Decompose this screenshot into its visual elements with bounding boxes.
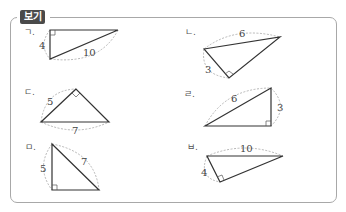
triangle-item-3: ㄷ. 5 7 bbox=[24, 87, 109, 136]
triangle-item-5: ㅁ. 5 7 bbox=[25, 142, 99, 190]
triangles-canvas: ㄱ. 4 10 ㄴ. 6 3 ㄷ. 5 7 bbox=[0, 0, 346, 212]
side-length-label: 3 bbox=[277, 102, 283, 113]
side-length-label: 7 bbox=[72, 125, 78, 136]
side-length-label: 5 bbox=[47, 96, 53, 107]
side-length-label: 10 bbox=[83, 47, 96, 58]
item-label: ㅁ. bbox=[25, 142, 36, 152]
right-triangle bbox=[204, 37, 280, 78]
right-angle-mark bbox=[225, 71, 233, 74]
item-label: ㄱ. bbox=[24, 27, 35, 37]
triangle-item-1: ㄱ. 4 10 bbox=[24, 27, 118, 60]
side-length-label: 10 bbox=[240, 143, 253, 154]
triangle-item-6: ㅂ. 10 4 bbox=[187, 142, 283, 182]
item-label: ㄹ. bbox=[184, 89, 195, 99]
triangle-item-4: ㄹ. 6 3 bbox=[184, 88, 283, 126]
side-length-label: 5 bbox=[40, 163, 46, 174]
item-label: ㄴ. bbox=[185, 27, 196, 37]
right-angle-mark bbox=[266, 121, 271, 126]
side-length-label: 4 bbox=[39, 40, 45, 51]
example-box-figure: 보기 ㄱ. 4 10 ㄴ. 6 3 ㄷ. bbox=[0, 0, 346, 212]
right-angle-mark bbox=[52, 185, 57, 190]
right-triangle bbox=[207, 156, 283, 182]
right-angle-mark bbox=[72, 93, 80, 97]
side-length-label: 7 bbox=[81, 156, 87, 167]
right-angle-mark bbox=[50, 30, 55, 35]
side-length-label: 6 bbox=[239, 28, 245, 39]
item-label: ㄷ. bbox=[24, 87, 35, 97]
side-length-label: 4 bbox=[201, 167, 207, 178]
item-label: ㅂ. bbox=[187, 142, 198, 152]
right-triangle bbox=[52, 144, 99, 190]
side-length-label: 6 bbox=[231, 93, 237, 104]
triangle-item-2: ㄴ. 6 3 bbox=[185, 27, 280, 78]
side-length-label: 3 bbox=[205, 64, 211, 75]
right-triangle bbox=[205, 88, 271, 126]
